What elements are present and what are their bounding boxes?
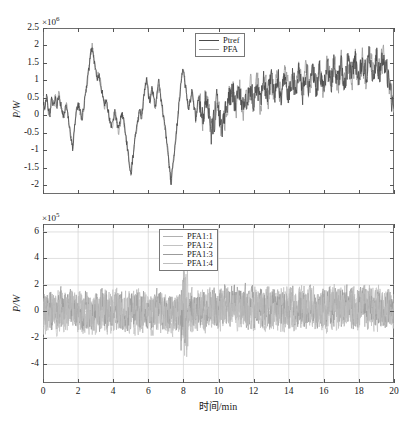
x-tick: [43, 190, 44, 194]
y-tick-right: [390, 258, 394, 259]
y-tick-label: 4: [34, 254, 39, 264]
legend-line-swatch: [163, 263, 183, 264]
x-tick: [359, 379, 360, 383]
bottom-series-svg: [43, 224, 394, 383]
y-tick-label: -4: [31, 360, 39, 370]
legend-line-swatch: [163, 254, 183, 255]
x-tick-label: 16: [319, 387, 329, 397]
x-tick-label: 4: [111, 387, 116, 397]
top-y-exponent: ×106: [42, 15, 60, 27]
x-tick: [78, 379, 79, 383]
x-tick-label: 2: [76, 387, 81, 397]
x-tick-top: [148, 224, 149, 228]
x-tick-label: 10: [214, 387, 224, 397]
x-tick: [113, 190, 114, 194]
y-tick-label: 1.5: [27, 58, 39, 68]
x-tick-top: [394, 28, 395, 32]
y-tick: [43, 98, 47, 99]
y-tick: [43, 63, 47, 64]
legend-entry: PFA1:4: [163, 259, 213, 268]
x-tick-top: [183, 28, 184, 32]
x-tick-top: [113, 224, 114, 228]
x-tick: [289, 379, 290, 383]
x-tick-top: [324, 28, 325, 32]
y-tick-label: -2: [31, 333, 39, 343]
x-tick: [324, 379, 325, 383]
y-tick-label: 0: [34, 111, 39, 121]
y-tick-label: 0.5: [27, 93, 39, 103]
y-tick: [43, 364, 47, 365]
y-tick-right: [390, 364, 394, 365]
legend-label: PFA: [223, 45, 238, 54]
x-tick: [219, 379, 220, 383]
y-tick-label: -2: [31, 181, 39, 191]
x-tick-top: [113, 28, 114, 32]
x-tick: [78, 190, 79, 194]
x-tick: [254, 190, 255, 194]
y-tick-label: -1.5: [24, 163, 39, 173]
y-tick-right: [390, 168, 394, 169]
top-y-axis-title: P/W: [11, 90, 22, 130]
y-tick: [43, 311, 47, 312]
x-tick: [43, 379, 44, 383]
y-tick-right: [390, 133, 394, 134]
y-tick: [43, 258, 47, 259]
x-tick-top: [148, 28, 149, 32]
bottom-chart-panel: ×105 6420-2-4 02468101214161820 PFA1:1PF…: [43, 224, 394, 383]
figure-canvas: ×106 2.521.510.50-0.5-1-1.5-2 PtrefPFA P…: [0, 0, 406, 423]
y-tick: [43, 338, 47, 339]
y-tick-label: -0.5: [24, 128, 39, 138]
series-line-Ptref: [43, 46, 394, 185]
x-tick-top: [359, 28, 360, 32]
x-axis-title: 时间/min: [199, 398, 237, 413]
y-tick-right: [390, 232, 394, 233]
x-tick-top: [359, 224, 360, 228]
y-tick: [43, 133, 47, 134]
x-tick: [113, 379, 114, 383]
x-tick: [394, 190, 395, 194]
legend-line-swatch: [199, 49, 219, 50]
legend-line-swatch: [199, 40, 219, 41]
x-tick: [394, 379, 395, 383]
x-tick: [359, 190, 360, 194]
x-tick-top: [254, 28, 255, 32]
x-tick-label: 6: [146, 387, 151, 397]
x-tick-label: 18: [354, 387, 364, 397]
legend-entry: PFA: [199, 45, 240, 54]
y-tick: [43, 232, 47, 233]
x-tick: [219, 190, 220, 194]
y-tick: [43, 168, 47, 169]
y-tick-right: [390, 98, 394, 99]
x-tick-label: 12: [249, 387, 259, 397]
y-tick-label: 1: [34, 76, 39, 86]
y-tick-right: [390, 115, 394, 116]
legend-line-swatch: [163, 245, 183, 246]
bottom-y-exponent: ×105: [42, 211, 60, 223]
x-tick-top: [78, 224, 79, 228]
x-tick: [289, 190, 290, 194]
x-tick-label: 20: [389, 387, 399, 397]
x-tick-label: 14: [284, 387, 294, 397]
x-tick: [254, 379, 255, 383]
y-tick-right: [390, 80, 394, 81]
bottom-y-axis-title: P/W: [11, 284, 22, 324]
x-tick-top: [289, 224, 290, 228]
y-tick-label: 0: [34, 307, 39, 317]
y-tick-right: [390, 63, 394, 64]
y-tick-label: 2.5: [27, 23, 39, 33]
y-tick-right: [390, 338, 394, 339]
y-tick-label: 2: [34, 280, 39, 290]
x-tick: [324, 190, 325, 194]
bottom-plot-area: [43, 224, 394, 383]
x-tick-label: 0: [41, 387, 46, 397]
y-tick: [43, 45, 47, 46]
y-tick-right: [390, 311, 394, 312]
x-tick: [148, 190, 149, 194]
x-tick-top: [219, 28, 220, 32]
y-tick-right: [390, 45, 394, 46]
x-tick: [183, 190, 184, 194]
y-tick-label: 6: [34, 227, 39, 237]
bottom-legend: PFA1:1PFA1:2PFA1:3PFA1:4: [159, 229, 218, 271]
x-tick-top: [324, 224, 325, 228]
y-tick: [43, 115, 47, 116]
